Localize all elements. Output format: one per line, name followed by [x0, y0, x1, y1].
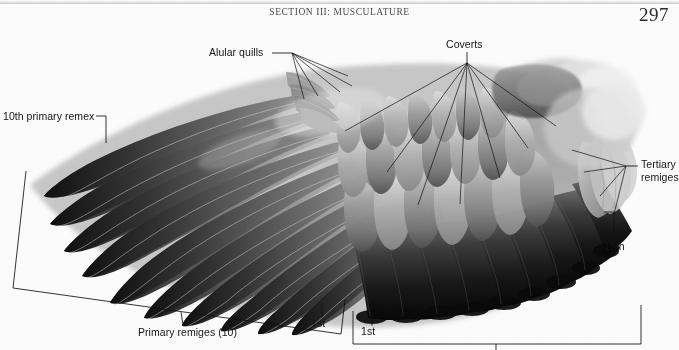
label-tertiary-remiges-line2: remiges: [641, 171, 679, 183]
label-alular-quills: Alular quills: [209, 46, 263, 58]
secondary-remiges-bracket: [353, 305, 641, 350]
label-1st-primary: 1st: [311, 317, 325, 329]
leader-tertiary-remiges: [572, 150, 638, 214]
label-15th: 15th: [604, 240, 625, 252]
textbook-page: SECTION III: MUSCULATURE 297: [0, 0, 679, 350]
primary-remiges-bracket: [13, 171, 345, 334]
label-10th-primary-remex: 10th primary remex: [3, 110, 94, 122]
leader-15th: [604, 212, 614, 238]
leader-10th-primary-remex: [96, 116, 106, 143]
label-primary-remiges: Primary remiges (10): [138, 326, 237, 338]
label-tertiary-remiges-line1: Tertiary: [641, 158, 676, 170]
annotation-overlay: [0, 0, 679, 350]
label-coverts: Coverts: [446, 38, 483, 50]
leader-coverts: [345, 52, 556, 205]
label-1st-secondary: 1st: [361, 325, 375, 337]
leader-alular-quills: [272, 53, 352, 99]
